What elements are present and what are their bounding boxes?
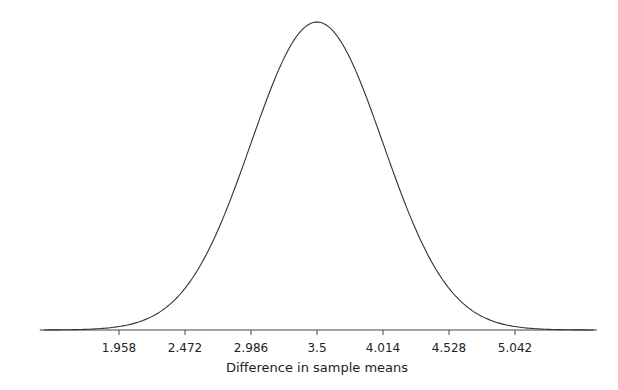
x-tick-label: 4.014: [366, 341, 400, 355]
x-tick-label: 2.986: [234, 341, 268, 355]
density-curve: [40, 22, 594, 330]
x-axis-label: Difference in sample means: [226, 360, 408, 375]
x-tick-label: 5.042: [498, 341, 532, 355]
x-axis-ticks: 1.9582.4722.9863.54.0144.5285.042: [102, 330, 532, 355]
x-tick-label: 4.528: [432, 341, 466, 355]
x-tick-label: 2.472: [168, 341, 202, 355]
normal-distribution-chart: 1.9582.4722.9863.54.0144.5285.042 Differ…: [0, 0, 618, 390]
x-tick-label: 3.5: [307, 341, 326, 355]
x-tick-label: 1.958: [102, 341, 136, 355]
